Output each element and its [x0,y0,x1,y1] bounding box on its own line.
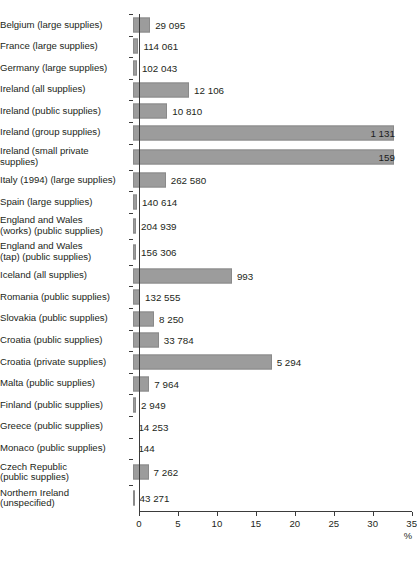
y-axis-tick [129,57,133,58]
bar-value-label: 102 043 [142,62,177,73]
x-axis-tick [295,512,296,516]
bar [133,491,135,506]
x-axis-tick [178,512,179,516]
y-axis-tick [129,416,133,417]
row-plot-area: 1 131 [133,122,416,144]
row-plot-area: 10 810 [133,100,416,122]
bar [133,125,394,140]
y-axis-tick [129,438,133,439]
x-axis-tick-label: 35 [406,518,417,529]
chart-row: England and Wales(tap) (public supplies)… [0,239,416,265]
x-axis-tick-label: 15 [251,518,262,529]
row-plot-area: 114 061 [133,36,416,58]
category-label: Ireland (all supplies) [0,79,133,101]
bar [133,82,189,97]
category-label: Greece (public supplies) [0,416,133,438]
bar [133,173,166,188]
y-axis-tick [129,459,133,460]
category-label: England and Wales(tap) (public supplies) [0,239,133,265]
x-axis-tick-label: 20 [289,518,300,529]
bar-value-label: 12 106 [194,84,224,95]
chart-row: Germany (large supplies)102 043 [0,57,416,79]
category-label: Iceland (all supplies) [0,265,133,287]
bar-value-label: 33 784 [164,335,194,346]
row-plot-area: 7 964 [133,373,416,395]
bar [133,398,136,413]
chart-row: Iceland (all supplies)993 [0,265,416,287]
y-axis-tick [129,100,133,101]
x-axis-tick-label: 30 [367,518,378,529]
bar [133,376,149,391]
row-plot-area: 33 784 [133,330,416,352]
row-plot-area: 43 271 [133,485,416,511]
row-plot-area: 5 294 [133,351,416,373]
chart-row: Croatia (public supplies)33 784 [0,330,416,352]
bar-value-label: 132 555 [145,292,180,303]
category-label-line: (tap) (public supplies) [0,252,91,263]
chart-row: Romania (public supplies)132 555 [0,286,416,308]
bar [133,60,137,75]
chart-row: Spain (large supplies)140 614 [0,191,416,213]
chart-row: Monaco (public supplies)144 [0,438,416,460]
bar [133,465,149,480]
category-label: France (large supplies) [0,36,133,58]
category-label: England and Wales(works) (public supplie… [0,213,133,239]
y-axis-tick [129,265,133,266]
chart-row: Slovakia (public supplies)8 250 [0,308,416,330]
bar-value-label: 159 [379,151,395,162]
row-plot-area: 29 095 [133,14,416,36]
category-label: Belgium (large supplies) [0,14,133,36]
y-axis-tick [129,213,133,214]
row-plot-area: 102 043 [133,57,416,79]
category-label-line: Ireland (group supplies) [0,127,100,138]
category-label: Germany (large supplies) [0,57,133,79]
category-label-line: Romania (public supplies) [0,292,110,303]
category-label-line: Ireland (small private [0,146,89,157]
category-label-line: Malta (public supplies) [0,378,95,389]
y-axis-tick [129,122,133,123]
category-label: Finland (public supplies) [0,394,133,416]
x-axis: 05101520253035 [139,511,412,512]
bar-value-label: 140 614 [142,196,177,207]
y-axis-tick [129,485,133,486]
chart-row: Finland (public supplies)2 949 [0,394,416,416]
bar-value-label: 7 262 [154,467,179,478]
bar-value-label: 7 964 [154,378,179,389]
category-label-line: Monaco (public supplies) [0,443,106,454]
category-label-line: Slovakia (public supplies) [0,313,108,324]
bar [133,268,232,283]
category-label: Czech Republic(public supplies) [0,459,133,485]
row-plot-area: 262 580 [133,170,416,192]
chart-row: England and Wales(works) (public supplie… [0,213,416,239]
row-plot-area: 144 [133,438,416,460]
y-axis-tick [129,330,133,331]
y-axis-tick [129,239,133,240]
y-axis-tick [129,191,133,192]
x-axis-tick [217,512,218,516]
category-label: Spain (large supplies) [0,191,133,213]
y-axis-tick [129,351,133,352]
y-axis-tick [129,170,133,171]
chart-row: Ireland (all supplies)12 106 [0,79,416,101]
chart-row: Northern Ireland(unspecified)43 271 [0,485,416,511]
category-label-line: Spain (large supplies) [0,197,92,208]
row-plot-area: 993 [133,265,416,287]
bar [133,194,137,209]
row-plot-area: 12 106 [133,79,416,101]
chart-row: Ireland (public supplies)10 810 [0,100,416,122]
bar [133,354,272,369]
category-label-line: Croatia (private supplies) [0,357,106,368]
bar [133,17,150,32]
x-axis-tick-label: 10 [212,518,223,529]
row-plot-area: 159 [133,144,416,170]
chart-row: Belgium (large supplies)29 095 [0,14,416,36]
y-axis-tick [129,373,133,374]
bar-value-label: 5 294 [277,356,302,367]
y-axis-tick [129,308,133,309]
y-axis-tick [129,144,133,145]
x-axis-tick-label: 5 [175,518,180,529]
category-label-line: Greece (public supplies) [0,421,103,432]
y-axis-tick [129,79,133,80]
bar-value-label: 14 253 [138,421,168,432]
category-label-line: (works) (public supplies) [0,226,103,237]
